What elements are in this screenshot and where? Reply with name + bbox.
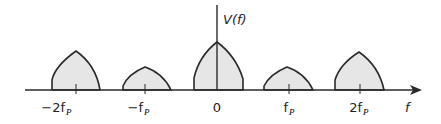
tick-sub-plus-fp: P xyxy=(288,107,295,117)
tick-label-plus-fp: f xyxy=(283,100,288,115)
lobe-minus-fp xyxy=(123,67,171,90)
x-axis-label: f xyxy=(405,100,412,115)
tick-label-minus-fp: −f xyxy=(128,100,144,115)
tick-label-zero: 0 xyxy=(213,100,221,115)
tick-label-minus-2fp: −2f xyxy=(41,100,65,115)
tick-sub-minus-fp: P xyxy=(143,107,150,117)
tick-sub-minus-2fp: P xyxy=(65,107,72,117)
tick-label-plus-2fp: 2f xyxy=(349,100,362,115)
spectral-lobes xyxy=(52,42,384,90)
spectrum-diagram: V(f) f −2f P −f P 0 f P 2f P xyxy=(0,0,441,124)
y-axis-label: V(f) xyxy=(223,12,247,27)
tick-sub-plus-2fp: P xyxy=(362,107,369,117)
lobe-zero xyxy=(194,42,243,90)
